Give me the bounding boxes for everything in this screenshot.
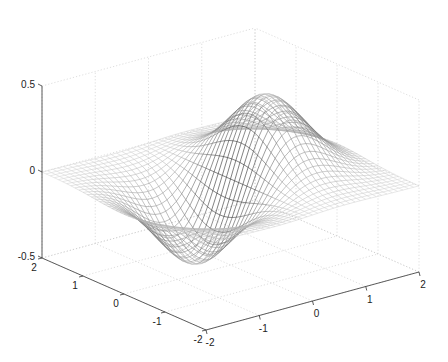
mesh-line-x bbox=[301, 177, 306, 180]
y-tick bbox=[161, 312, 165, 313]
mesh-line-x bbox=[329, 165, 334, 166]
mesh-line-y bbox=[92, 194, 96, 197]
floor-grid-y bbox=[165, 254, 378, 312]
mesh-line-y bbox=[162, 161, 166, 164]
mesh-line-y bbox=[259, 137, 263, 142]
mesh-line-x bbox=[372, 193, 377, 194]
mesh-line-y bbox=[338, 171, 342, 176]
mesh-line-y bbox=[331, 182, 335, 186]
mesh-line-y bbox=[285, 195, 289, 198]
mesh-line-y bbox=[277, 212, 281, 213]
mesh-line-x bbox=[211, 126, 216, 127]
mesh-line-x bbox=[272, 189, 277, 197]
mesh-line-y bbox=[185, 134, 189, 135]
mesh-line-y bbox=[141, 153, 145, 156]
mesh-line-y bbox=[217, 193, 221, 195]
mesh-line-y bbox=[133, 187, 137, 193]
mesh-line-x bbox=[250, 229, 255, 230]
mesh-line-y bbox=[191, 130, 195, 131]
mesh-line-y bbox=[120, 177, 124, 182]
mesh-line-y bbox=[274, 206, 278, 207]
mesh-line-x bbox=[137, 149, 142, 151]
mesh-line-y bbox=[340, 186, 344, 190]
mesh-line-y bbox=[289, 163, 293, 169]
mesh-line-y bbox=[83, 181, 87, 184]
mesh-line-y bbox=[249, 148, 253, 151]
mesh-line-x bbox=[199, 185, 204, 199]
mesh-line-y bbox=[320, 205, 324, 207]
mesh-line-y bbox=[352, 196, 356, 199]
mesh-line-y bbox=[369, 175, 373, 178]
mesh-line-y bbox=[355, 187, 359, 190]
mesh-line-y bbox=[255, 190, 259, 192]
mesh-line-y bbox=[101, 157, 105, 159]
mesh-line-y bbox=[139, 186, 143, 192]
mesh-line-x bbox=[282, 131, 287, 136]
mesh-line-y bbox=[178, 139, 182, 140]
mesh-line-y bbox=[325, 184, 329, 188]
mesh-line-x bbox=[309, 188, 314, 191]
mesh-line-x bbox=[215, 215, 220, 231]
mesh-line-y bbox=[132, 170, 136, 174]
mesh-line-y bbox=[117, 169, 121, 173]
mesh-line-y bbox=[365, 186, 369, 189]
mesh-line-y bbox=[125, 177, 129, 182]
mesh-line-x bbox=[373, 166, 378, 167]
mesh-line-y bbox=[291, 211, 295, 212]
mesh-line-y bbox=[348, 193, 352, 196]
mesh-line-x bbox=[376, 171, 381, 172]
mesh-line-y bbox=[386, 170, 390, 172]
mesh-line-x bbox=[391, 183, 396, 184]
mesh-line-y bbox=[293, 200, 297, 202]
mesh-line-y bbox=[391, 184, 395, 186]
mesh-line-y bbox=[324, 190, 328, 194]
mesh-line-y bbox=[282, 182, 286, 186]
mesh-line-x bbox=[121, 154, 126, 156]
mesh-line-y bbox=[175, 172, 179, 176]
mesh-line-x bbox=[241, 127, 246, 143]
mesh-line-x bbox=[336, 181, 341, 182]
mesh-line-y bbox=[364, 176, 368, 179]
mesh-line-y bbox=[290, 151, 294, 158]
mesh-line-y bbox=[155, 151, 159, 153]
mesh-line-y bbox=[237, 142, 241, 143]
mesh-line-x bbox=[245, 231, 250, 232]
mesh-line-y bbox=[286, 186, 290, 190]
mesh-line-y bbox=[119, 182, 123, 187]
mesh-line-x bbox=[339, 189, 344, 190]
mesh-line-x bbox=[85, 173, 90, 174]
mesh-line-y bbox=[259, 192, 263, 194]
mesh-line-y bbox=[328, 194, 332, 197]
mesh-line-x bbox=[272, 212, 277, 215]
mesh-line-x bbox=[190, 194, 195, 205]
mesh-line-y bbox=[74, 164, 78, 166]
mesh-line-x bbox=[179, 215, 184, 222]
mesh-line-y bbox=[65, 175, 69, 177]
mesh-line-x bbox=[202, 155, 207, 167]
mesh-line-x bbox=[83, 180, 88, 181]
mesh-line-y bbox=[147, 199, 151, 206]
z-tick bbox=[38, 170, 42, 172]
mesh-line-x bbox=[310, 207, 315, 209]
mesh-line-y bbox=[203, 203, 207, 207]
mesh-line-y bbox=[98, 165, 102, 168]
mesh-line-y bbox=[290, 214, 294, 215]
mesh-line-x bbox=[367, 181, 372, 182]
mesh-line-x bbox=[185, 205, 190, 214]
mesh-line-y bbox=[302, 172, 306, 178]
mesh-line-y bbox=[183, 180, 187, 185]
mesh-line-y bbox=[361, 169, 365, 172]
mesh-line-y bbox=[105, 175, 109, 179]
mesh-line-x bbox=[247, 170, 252, 186]
mesh-line-x bbox=[315, 205, 320, 207]
mesh-line-x bbox=[351, 183, 356, 184]
mesh-line-y bbox=[274, 221, 278, 222]
mesh-line-x bbox=[146, 149, 151, 151]
mesh-line-y bbox=[183, 137, 187, 138]
mesh-line-y bbox=[83, 165, 87, 167]
mesh-line-y bbox=[271, 153, 275, 159]
x-tick bbox=[313, 301, 314, 305]
mesh-line-x bbox=[183, 147, 188, 151]
mesh-line-y bbox=[306, 144, 310, 152]
mesh-line-x bbox=[160, 150, 165, 153]
